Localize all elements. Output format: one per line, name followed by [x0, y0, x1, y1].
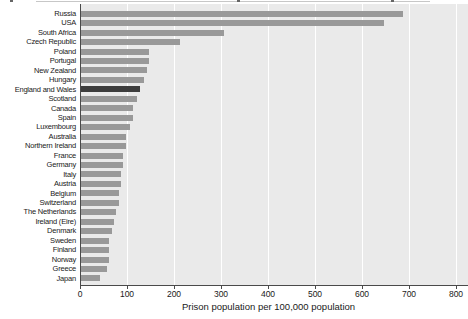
chart-row-spain: Spain: [0, 113, 468, 122]
bar-sweden: [81, 238, 109, 244]
category-label-italy: Italy: [0, 171, 76, 179]
chart-row-france: France: [0, 151, 468, 160]
x-tick-label-800: 800: [449, 290, 463, 299]
chart-row-luxembourg: Luxembourg: [0, 122, 468, 131]
category-label-germany: Germany: [0, 161, 76, 169]
bar-hungary: [81, 77, 144, 83]
x-tick-label-600: 600: [355, 290, 369, 299]
chart-row-usa: USA: [0, 18, 468, 27]
category-label-england-and-wales: England and Wales: [0, 86, 76, 94]
category-label-france: France: [0, 152, 76, 160]
bar-russia: [81, 11, 403, 17]
bar-finland: [81, 247, 109, 253]
bar-luxembourg: [81, 124, 130, 130]
category-label-japan: Japan: [0, 275, 76, 283]
chart-row-new-zealand: New Zealand: [0, 66, 468, 75]
bar-ireland-eire: [81, 219, 114, 225]
category-label-usa: USA: [0, 19, 76, 27]
bar-england-and-wales: [81, 86, 140, 92]
category-label-new-zealand: New Zealand: [0, 67, 76, 75]
chart-row-czech-republic: Czech Republic: [0, 37, 468, 46]
bar-rows: RussiaUSASouth AfricaCzech RepublicPolan…: [0, 4, 468, 286]
x-tick-label-500: 500: [308, 290, 322, 299]
chart-row-italy: Italy: [0, 170, 468, 179]
chart-row-switzerland: Switzerland: [0, 198, 468, 207]
bar-austria: [81, 181, 121, 187]
chart-row-the-netherlands: The Netherlands: [0, 208, 468, 217]
x-tick-label-400: 400: [261, 290, 275, 299]
bar-portugal: [81, 58, 149, 64]
chart-row-portugal: Portugal: [0, 56, 468, 65]
chart-row-sweden: Sweden: [0, 236, 468, 245]
x-tick-label-200: 200: [167, 290, 181, 299]
chart-row-south-africa: South Africa: [0, 28, 468, 37]
category-label-norway: Norway: [0, 256, 76, 264]
cropped-title-remnant-mark: [391, 0, 394, 2]
category-label-the-netherlands: The Netherlands: [0, 208, 76, 216]
bar-czech-republic: [81, 39, 180, 45]
category-label-czech-republic: Czech Republic: [0, 38, 76, 46]
chart-row-russia: Russia: [0, 9, 468, 18]
category-label-australia: Australia: [0, 133, 76, 141]
category-label-austria: Austria: [0, 180, 76, 188]
bar-the-netherlands: [81, 209, 116, 215]
category-label-ireland-eire: Ireland (Eire): [0, 218, 76, 226]
bar-usa: [81, 20, 384, 26]
category-label-canada: Canada: [0, 105, 76, 113]
chart-row-hungary: Hungary: [0, 75, 468, 84]
bar-norway: [81, 257, 109, 263]
chart-row-belgium: Belgium: [0, 189, 468, 198]
chart-row-england-and-wales: England and Wales: [0, 85, 468, 94]
chart-row-australia: Australia: [0, 132, 468, 141]
bar-japan: [81, 275, 100, 281]
bar-greece: [81, 266, 107, 272]
x-tick-label-100: 100: [120, 290, 134, 299]
bar-belgium: [81, 190, 119, 196]
x-axis-title: Prison population per 100,000 population: [80, 302, 457, 312]
chart-row-ireland-eire: Ireland (Eire): [0, 217, 468, 226]
chart-row-scotland: Scotland: [0, 94, 468, 103]
chart-row-austria: Austria: [0, 179, 468, 188]
bar-italy: [81, 171, 121, 177]
chart-row-japan: Japan: [0, 274, 468, 283]
category-label-spain: Spain: [0, 114, 76, 122]
x-tick-label-0: 0: [78, 290, 83, 299]
category-label-scotland: Scotland: [0, 95, 76, 103]
category-label-portugal: Portugal: [0, 57, 76, 65]
chart-row-canada: Canada: [0, 104, 468, 113]
category-label-hungary: Hungary: [0, 76, 76, 84]
chart-row-finland: Finland: [0, 245, 468, 254]
bar-australia: [81, 134, 126, 140]
bar-france: [81, 153, 123, 159]
category-label-luxembourg: Luxembourg: [0, 123, 76, 131]
cropped-title-remnant-mark: [237, 0, 240, 2]
category-label-south-africa: South Africa: [0, 29, 76, 37]
category-label-northern-ireland: Northern Ireland: [0, 142, 76, 150]
chart-row-greece: Greece: [0, 264, 468, 273]
category-label-belgium: Belgium: [0, 190, 76, 198]
bar-south-africa: [81, 30, 224, 36]
bar-denmark: [81, 228, 112, 234]
bar-new-zealand: [81, 67, 147, 73]
chart-row-poland: Poland: [0, 47, 468, 56]
bar-canada: [81, 105, 133, 111]
category-label-russia: Russia: [0, 10, 76, 18]
bar-germany: [81, 162, 123, 168]
x-tick-label-300: 300: [214, 290, 228, 299]
cropped-title-remnant-line: [36, 1, 430, 2]
category-label-poland: Poland: [0, 48, 76, 56]
bar-northern-ireland: [81, 143, 126, 149]
chart-row-denmark: Denmark: [0, 226, 468, 235]
bar-spain: [81, 115, 133, 121]
prison-population-bar-chart: RussiaUSASouth AfricaCzech RepublicPolan…: [0, 0, 468, 319]
x-tick-label-700: 700: [402, 290, 416, 299]
bar-scotland: [81, 96, 137, 102]
chart-row-northern-ireland: Northern Ireland: [0, 141, 468, 150]
category-label-greece: Greece: [0, 265, 76, 273]
category-label-sweden: Sweden: [0, 237, 76, 245]
category-label-denmark: Denmark: [0, 227, 76, 235]
cropped-title-remnant-mark: [10, 0, 13, 2]
bar-switzerland: [81, 200, 119, 206]
chart-row-germany: Germany: [0, 160, 468, 169]
category-label-switzerland: Switzerland: [0, 199, 76, 207]
